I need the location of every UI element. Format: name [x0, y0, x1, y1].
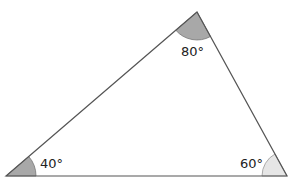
angle-label-b: 80° [181, 44, 204, 59]
angle-label-a: 40° [40, 156, 63, 171]
angle-arc-c [262, 154, 287, 176]
triangle-diagram: 40° 80° 60° [0, 0, 293, 186]
angle-arc-a [6, 157, 36, 177]
triangle-shape [6, 12, 287, 176]
angle-label-c: 60° [240, 156, 263, 171]
